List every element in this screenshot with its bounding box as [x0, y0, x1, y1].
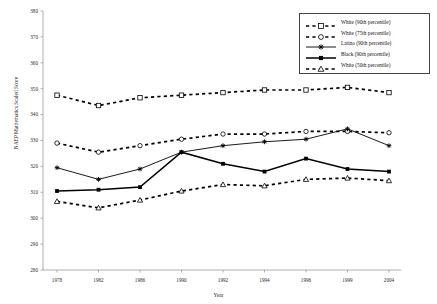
- y-axis-tick-label: 340: [16, 111, 38, 117]
- data-point-square-open: [304, 88, 308, 92]
- y-axis-tick-label: 300: [16, 215, 38, 221]
- data-point-circle-open: [179, 137, 183, 141]
- data-point-square-filled: [346, 167, 350, 171]
- x-axis-tick-label: 1986: [123, 277, 157, 283]
- y-axis-tick-label: 320: [16, 163, 38, 169]
- data-point-square-open: [262, 88, 266, 92]
- legend-item: Black (90th percentile): [303, 49, 427, 60]
- data-point-circle-open: [304, 129, 308, 133]
- chart-series-layer: [54, 85, 391, 210]
- data-point-square-filled: [221, 162, 225, 166]
- data-point-asterisk: [387, 143, 392, 148]
- chart-figure: NAEP Mathematics Scaled Score Year 28029…: [0, 0, 437, 304]
- data-point-circle-open: [221, 132, 225, 136]
- legend-label: White (90th percentile): [339, 19, 390, 25]
- data-point-square-open: [96, 103, 100, 107]
- data-point-square-open: [221, 90, 225, 94]
- data-point-asterisk: [304, 137, 309, 142]
- x-axis-tick-label: 1999: [331, 277, 365, 283]
- data-point-circle-open: [262, 132, 266, 136]
- legend-marker-square-filled-icon: [303, 49, 339, 59]
- data-point-asterisk: [55, 165, 60, 170]
- legend-marker-asterisk-icon: [303, 38, 339, 48]
- data-point-asterisk: [221, 143, 226, 148]
- y-axis-tick-label: 380: [16, 8, 38, 14]
- data-point-square-filled: [97, 188, 101, 192]
- legend-label: White (50th percentile): [339, 62, 390, 68]
- data-point-square-filled: [55, 189, 59, 193]
- data-point-square-open: [138, 96, 142, 100]
- data-point-square-open: [179, 93, 183, 97]
- y-axis-tick-label: 360: [16, 60, 38, 66]
- chart-legend: White (90th percentile)White (75th perce…: [299, 13, 430, 74]
- x-axis-tick-label: 1996: [289, 277, 323, 283]
- legend-label: White (75th percentile): [339, 30, 390, 36]
- legend-item: White (75th percentile): [303, 28, 427, 39]
- legend-item: White (90th percentile): [303, 17, 427, 28]
- y-axis-tick-label: 330: [16, 137, 38, 143]
- data-point-square-filled: [263, 170, 267, 174]
- data-point-square-filled: [304, 157, 308, 161]
- data-point-square-open: [387, 90, 391, 94]
- legend-marker-triangle-open-icon: [303, 60, 339, 70]
- x-axis-tick-label: 1990: [165, 277, 199, 283]
- data-point-square-open: [345, 85, 349, 89]
- data-point-circle-open: [387, 131, 391, 135]
- y-axis-tick-label: 310: [16, 189, 38, 195]
- legend-label: Latino (90th percentile): [339, 40, 391, 46]
- series-0: [55, 85, 391, 108]
- data-point-circle-open: [138, 143, 142, 147]
- y-axis-tick-label: 280: [16, 267, 38, 273]
- legend-label: Black (90th percentile): [339, 51, 390, 57]
- x-axis-tick-label: 2004: [372, 277, 406, 283]
- legend-marker-circle-open-icon: [303, 28, 339, 38]
- legend-marker-square-open-icon: [303, 17, 339, 27]
- data-point-circle-open: [55, 141, 59, 145]
- data-point-square-filled: [180, 150, 184, 154]
- data-point-asterisk: [138, 167, 143, 172]
- x-axis-tick-label: 1982: [82, 277, 116, 283]
- y-axis-tick-label: 370: [16, 34, 38, 40]
- y-axis-tick-label: 350: [16, 86, 38, 92]
- x-axis-tick-label: 1992: [206, 277, 240, 283]
- x-axis-title: Year: [0, 292, 437, 298]
- x-axis-tick-label: 1994: [248, 277, 282, 283]
- x-axis-tick-label: 1978: [40, 277, 74, 283]
- data-point-asterisk: [262, 139, 267, 144]
- data-point-asterisk: [96, 177, 101, 182]
- series-1: [55, 129, 391, 154]
- series-4: [54, 175, 391, 209]
- legend-item: Latino (90th percentile): [303, 38, 427, 49]
- data-point-circle-open: [96, 150, 100, 154]
- data-point-square-open: [55, 93, 59, 97]
- data-point-square-filled: [138, 185, 142, 189]
- legend-item: White (50th percentile): [303, 59, 427, 70]
- data-point-square-filled: [387, 170, 391, 174]
- data-point-asterisk: [345, 126, 350, 131]
- y-axis-tick-label: 290: [16, 241, 38, 247]
